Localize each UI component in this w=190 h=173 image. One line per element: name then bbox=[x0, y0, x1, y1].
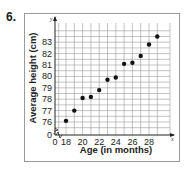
data-point bbox=[114, 75, 118, 79]
data-point bbox=[89, 95, 93, 99]
data-point bbox=[122, 62, 126, 66]
data-point bbox=[139, 54, 143, 58]
x-axis-label: Age (in months) bbox=[80, 144, 152, 155]
y-tick-label: 79 bbox=[42, 83, 52, 93]
y-tick-label: 82 bbox=[42, 49, 52, 59]
y-tick-label: 78 bbox=[42, 94, 52, 104]
data-point bbox=[105, 78, 109, 82]
data-point bbox=[155, 34, 159, 38]
y-tick-label: 0 bbox=[47, 130, 52, 140]
data-point bbox=[72, 108, 76, 112]
data-point bbox=[64, 119, 68, 123]
y-axis-label: Average height (cm) bbox=[27, 33, 38, 124]
axes bbox=[51, 16, 175, 138]
y-tick-label: 76 bbox=[42, 117, 52, 127]
scatter-chart: 076777879808182830182022242628 Age (in m… bbox=[0, 0, 190, 173]
y-tick-label: 80 bbox=[42, 71, 52, 81]
y-axis-name: y bbox=[49, 16, 53, 22]
y-tick-label: 81 bbox=[42, 60, 52, 70]
y-tick-label: 83 bbox=[42, 37, 52, 47]
data-point bbox=[130, 61, 134, 65]
grid-lines bbox=[55, 23, 170, 135]
data-point bbox=[80, 96, 84, 100]
x-tick-label: 0 bbox=[52, 137, 57, 147]
x-tick-label: 18 bbox=[61, 137, 71, 147]
x-axis-name: x bbox=[170, 136, 174, 142]
y-tick-label: 77 bbox=[42, 106, 52, 116]
data-point bbox=[147, 42, 151, 46]
data-point bbox=[97, 88, 101, 92]
